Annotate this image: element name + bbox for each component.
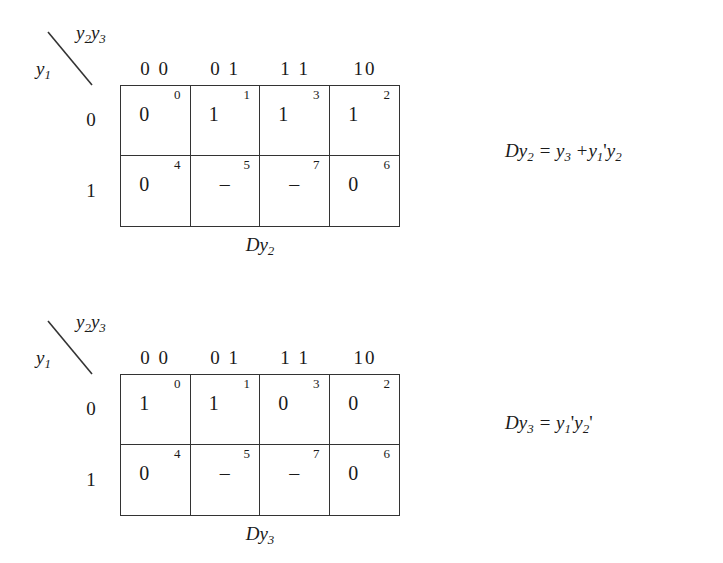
- cell-minterm-index: 2: [384, 376, 391, 391]
- equation-dy3: Dy3 = y1'y2': [505, 412, 593, 437]
- cell-value: 0: [319, 461, 389, 485]
- row-header-1: 1: [68, 469, 114, 491]
- kmap-cell[interactable]: 5 –: [191, 156, 261, 226]
- cell-minterm-index: 5: [244, 446, 251, 461]
- cell-minterm-index: 1: [244, 376, 251, 391]
- cell-minterm-index: 3: [313, 376, 320, 391]
- kmap-grid: 0 0 1 1 3 1 2 1 4 0 5 – 7 – 6 0: [120, 85, 400, 227]
- column-header-10: 10: [330, 344, 400, 374]
- kmap-cell[interactable]: 6 0: [330, 445, 400, 515]
- kmap-cell[interactable]: 4 0: [121, 445, 191, 515]
- cell-value: 0: [110, 172, 179, 196]
- column-headers: 0 0 0 1 1 1 10: [120, 55, 400, 85]
- column-header-01: 0 1: [190, 344, 260, 374]
- kmap-cell[interactable]: 5 –: [191, 445, 261, 515]
- row-header-0: 0: [68, 398, 114, 420]
- cell-value: 0: [110, 461, 179, 485]
- cell-value: 1: [319, 102, 389, 126]
- kmap-cell[interactable]: 2 1: [330, 86, 400, 156]
- cell-value: –: [191, 461, 260, 485]
- row-headers: 0 1: [68, 85, 114, 227]
- cell-minterm-index: 2: [384, 87, 391, 102]
- cell-minterm-index: 5: [244, 157, 251, 172]
- cell-minterm-index: 7: [313, 157, 320, 172]
- kmap-cell[interactable]: 2 0: [330, 375, 400, 445]
- kmap-corner-header: y2y3 y1: [28, 22, 120, 85]
- cell-value: 0: [319, 172, 389, 196]
- row-headers: 0 1: [68, 374, 114, 516]
- cell-value: 0: [249, 391, 318, 415]
- kmap-corner-header: y2y3 y1: [28, 311, 120, 374]
- cell-minterm-index: 4: [174, 157, 181, 172]
- cell-value: 1: [249, 102, 318, 126]
- kmap-grid: 0 1 1 1 3 0 2 0 4 0 5 – 7 – 6 0: [120, 374, 400, 516]
- cell-value: –: [191, 172, 260, 196]
- column-variable-label: y2y3: [76, 311, 106, 336]
- cell-value: 0: [319, 391, 389, 415]
- column-header-00: 0 0: [120, 55, 190, 85]
- kmap-cell[interactable]: 4 0: [121, 156, 191, 226]
- cell-minterm-index: 4: [174, 446, 181, 461]
- cell-minterm-index: 0: [174, 87, 181, 102]
- kmap-cell[interactable]: 6 0: [330, 156, 400, 226]
- column-header-00: 0 0: [120, 344, 190, 374]
- row-header-0: 0: [68, 109, 114, 131]
- row-variable-label: y1: [36, 347, 51, 372]
- column-header-11: 1 1: [260, 344, 330, 374]
- equation-dy2: Dy2 = y3 +y1'y2: [505, 140, 622, 165]
- cell-minterm-index: 0: [174, 376, 181, 391]
- column-header-01: 0 1: [190, 55, 260, 85]
- cell-minterm-index: 3: [313, 87, 320, 102]
- kmap-caption: Dy3: [120, 523, 400, 548]
- cell-minterm-index: 6: [384, 446, 391, 461]
- column-header-11: 1 1: [260, 55, 330, 85]
- kmap-caption: Dy2: [120, 234, 400, 259]
- column-headers: 0 0 0 1 1 1 10: [120, 344, 400, 374]
- cell-value: 0: [110, 102, 179, 126]
- cell-value: 1: [180, 102, 249, 126]
- row-header-1: 1: [68, 180, 114, 202]
- column-header-10: 10: [330, 55, 400, 85]
- cell-minterm-index: 6: [384, 157, 391, 172]
- cell-minterm-index: 1: [244, 87, 251, 102]
- column-variable-label: y2y3: [76, 22, 106, 47]
- cell-value: 1: [180, 391, 249, 415]
- cell-minterm-index: 7: [313, 446, 320, 461]
- cell-value: 1: [110, 391, 179, 415]
- row-variable-label: y1: [36, 58, 51, 83]
